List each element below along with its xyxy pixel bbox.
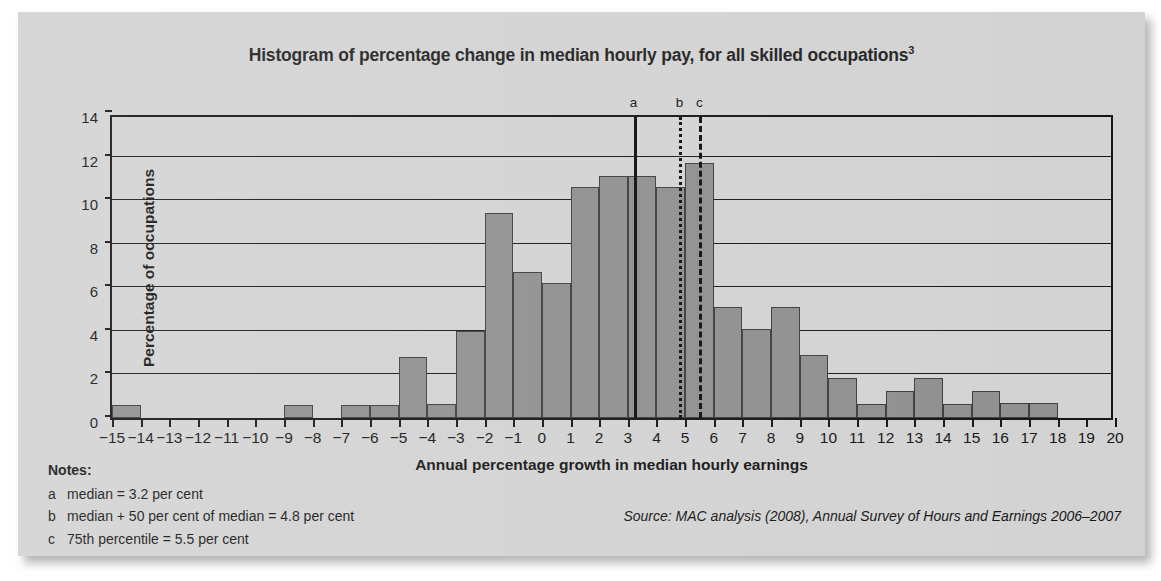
histogram-bar	[1000, 403, 1029, 418]
x-tick-label: 11	[849, 429, 865, 447]
histogram-bar	[427, 404, 456, 418]
note-text: median = 3.2 per cent	[67, 483, 203, 506]
x-tick-label: 13	[906, 429, 923, 447]
x-tick-label: 18	[1049, 429, 1066, 447]
x-tick-mark	[1000, 418, 1002, 427]
notes-heading: Notes:	[48, 459, 588, 482]
chart-title-footnote-marker: 3	[908, 44, 914, 56]
x-tick-label: 16	[992, 429, 1009, 447]
x-tick-label: 20	[1106, 429, 1123, 447]
y-tick-mark	[105, 197, 112, 199]
y-tick-label: 0	[90, 414, 98, 431]
histogram-bar	[599, 176, 628, 418]
y-tick-label: 12	[81, 152, 98, 169]
y-tick-mark	[105, 284, 112, 286]
histogram-bar	[742, 329, 771, 418]
histogram-bar	[943, 404, 972, 418]
y-tick-label: 6	[90, 283, 98, 300]
x-tick-mark	[628, 418, 630, 427]
y-tick-mark	[105, 110, 112, 112]
histogram-bar	[914, 378, 943, 418]
x-tick-label: 14	[934, 429, 951, 447]
x-tick-mark	[1086, 418, 1088, 427]
x-tick-mark	[857, 418, 859, 427]
x-tick-mark	[742, 418, 744, 427]
x-tick-mark	[485, 418, 487, 427]
figure-panel: Histogram of percentage change in median…	[18, 12, 1145, 556]
x-tick-mark	[828, 418, 830, 427]
x-tick-mark	[255, 418, 257, 427]
notes-block: Notes: amedian = 3.2 per centbmedian + 5…	[48, 459, 588, 551]
x-tick-mark	[399, 418, 401, 427]
reference-line-b	[679, 117, 682, 418]
x-tick-label: 10	[820, 429, 837, 447]
note-key: c	[48, 528, 58, 551]
x-tick-mark	[685, 418, 687, 427]
x-tick-label: −3	[447, 429, 465, 447]
histogram-bar	[284, 405, 313, 418]
histogram-bar	[972, 391, 1001, 418]
reference-line-label-b: b	[676, 95, 684, 110]
x-tick-label: 19	[1078, 429, 1095, 447]
plot-area: Percentage of occupations 02468101214 ab…	[110, 115, 1113, 420]
screenshot-root: Histogram of percentage change in median…	[0, 0, 1161, 581]
x-tick-label: −8	[304, 429, 322, 447]
source-caption: Source: MAC analysis (2008), Annual Surv…	[623, 508, 1121, 524]
histogram-bar	[886, 391, 915, 418]
x-tick-label: 17	[1020, 429, 1037, 447]
y-tick-mark	[105, 154, 112, 156]
reference-line-label-a: a	[630, 95, 638, 110]
x-tick-mark	[1058, 418, 1060, 427]
y-tick-label: 4	[90, 326, 98, 343]
y-tick-mark	[105, 328, 112, 330]
note-key: a	[48, 483, 58, 506]
x-tick-mark	[771, 418, 773, 427]
histogram-bar	[513, 272, 542, 418]
histogram-bar	[542, 283, 571, 418]
x-tick-mark	[542, 418, 544, 427]
note-item: bmedian + 50 per cent of median = 4.8 pe…	[48, 505, 588, 528]
note-item: c75th percentile = 5.5 per cent	[48, 528, 588, 551]
x-tick-label: −15	[99, 429, 125, 447]
x-tick-mark	[571, 418, 573, 427]
x-tick-mark	[341, 418, 343, 427]
histogram-bar	[800, 355, 829, 418]
y-tick-mark	[105, 415, 112, 417]
y-tick-label: 10	[81, 196, 98, 213]
x-tick-mark	[284, 418, 286, 427]
reference-line-a	[634, 117, 637, 418]
y-tick-label: 14	[81, 109, 98, 126]
x-tick-label: −6	[361, 429, 379, 447]
histogram-bar	[828, 378, 857, 418]
x-tick-label: −7	[332, 429, 350, 447]
reference-line-c	[699, 117, 702, 418]
x-tick-mark	[112, 418, 114, 427]
x-tick-label: −9	[275, 429, 293, 447]
histogram-bar	[714, 307, 743, 418]
y-tick-label: 2	[90, 370, 98, 387]
y-tick-label: 8	[90, 239, 98, 256]
x-tick-label: −12	[185, 429, 211, 447]
x-tick-label: 4	[652, 429, 661, 447]
x-tick-mark	[198, 418, 200, 427]
histogram-bar	[112, 405, 141, 418]
x-tick-label: 15	[963, 429, 980, 447]
gridline	[112, 156, 1111, 157]
histogram-bar	[857, 404, 886, 418]
x-tick-mark	[169, 418, 171, 427]
histogram-bar	[1029, 403, 1058, 418]
histogram-bar	[485, 213, 514, 418]
x-tick-label: −10	[242, 429, 268, 447]
x-tick-label: −4	[418, 429, 436, 447]
x-tick-label: 6	[709, 429, 718, 447]
x-tick-mark	[141, 418, 143, 427]
x-tick-mark	[800, 418, 802, 427]
x-tick-label: 1	[566, 429, 575, 447]
x-tick-mark	[1115, 418, 1117, 427]
note-item: amedian = 3.2 per cent	[48, 483, 588, 506]
x-tick-label: 7	[738, 429, 747, 447]
x-tick-mark	[1029, 418, 1031, 427]
x-tick-label: 12	[877, 429, 894, 447]
chart-title-text: Histogram of percentage change in median…	[249, 45, 909, 65]
x-tick-mark	[427, 418, 429, 427]
